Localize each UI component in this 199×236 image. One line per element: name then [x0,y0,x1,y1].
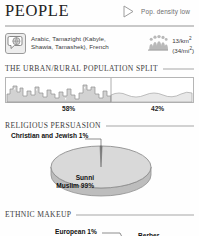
urban-rural-labels: 58% 42% [5,103,194,114]
ethnic-label-berber: Berber [138,232,159,236]
section-header-religion: RELIGIOUS PERSUASION [5,121,194,130]
country-facts-row: Arabic, Tamazight (Kabyle, Shawia, Tamas… [5,33,194,57]
section-title-ethnic: ETHNIC MAKEUP [5,210,71,219]
triangle-right-icon [123,5,134,18]
people-infographic-page: PEOPLE Pop. density low Arabic, Tamazigh… [0,0,199,236]
urban-percentage-label: 58% [62,105,75,112]
density-imperial-close: ) [192,48,194,55]
header-rule [5,25,194,27]
urban-rural-skyline-chart [5,77,194,103]
density-metric: 13/km [172,37,189,44]
ethnic-label-european: European 1% [55,228,97,235]
rural-percentage-label: 42% [151,105,164,112]
people-crowd-icon [148,34,168,51]
section-title-religion: RELIGIOUS PERSUASION [5,121,101,130]
pop-density-note: Pop. density low [141,8,190,15]
density-imperial: (34/mi [172,48,189,55]
section-title-urban-rural: THE URBAN/RURAL POPULATION SPLIT [5,64,158,73]
section-header-ethnic: ETHNIC MAKEUP [5,210,194,219]
population-density-group: 13/km2 (34/mi2) [148,33,194,56]
section-divider [163,68,194,70]
religion-pie-chart: Christian and Jewish 1% Sunni Muslim 99% [5,131,194,203]
density-metric-exponent: 2 [189,36,192,41]
sunni-label-line1: Sunni [76,174,94,181]
page-header: PEOPLE Pop. density low [5,0,194,24]
religion-label-sunni-muslim: Sunni Muslim 99% [34,174,94,191]
section-header-urban-rural: THE URBAN/RURAL POPULATION SPLIT [5,64,194,73]
religion-label-christian-jewish: Christian and Jewish 1% [11,132,88,140]
ethnic-pie-chart: European 1% Berber [5,222,194,236]
section-divider [76,214,194,216]
population-density-values: 13/km2 (34/mi2) [172,34,194,56]
speech-bubble-language-icon [5,33,26,54]
official-languages: Arabic, Tamazight (Kabyle, Shawia, Tamas… [31,33,123,52]
page-title: PEOPLE [5,2,69,20]
density-note-group: Pop. density low [123,2,194,18]
section-divider [106,125,194,127]
sunni-label-line2: Muslim 99% [56,182,94,189]
